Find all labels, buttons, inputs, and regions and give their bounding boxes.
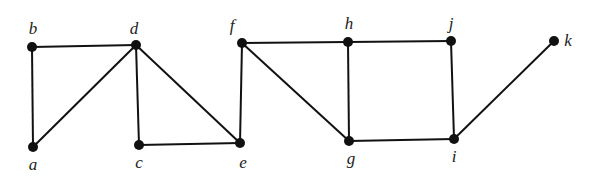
labels-group: abcdefghijk <box>29 14 572 174</box>
edge-h-j <box>348 41 451 42</box>
edge-f-g <box>242 43 349 141</box>
vertex-k <box>549 36 559 46</box>
edge-a-b <box>32 47 33 147</box>
vertex-label-h: h <box>345 14 354 33</box>
vertex-e <box>235 138 245 148</box>
vertex-b <box>27 42 37 52</box>
vertex-label-e: e <box>239 153 247 172</box>
vertex-h <box>343 37 353 47</box>
vertex-i <box>449 134 459 144</box>
vertex-label-f: f <box>230 16 237 35</box>
edge-a-d <box>33 45 136 147</box>
edge-g-i <box>349 139 454 141</box>
edge-c-e <box>139 143 240 145</box>
vertex-label-j: j <box>447 14 454 33</box>
vertex-g <box>344 136 354 146</box>
vertex-label-c: c <box>135 153 143 172</box>
edges-group <box>32 41 554 147</box>
vertex-label-b: b <box>29 19 38 38</box>
vertex-label-i: i <box>452 147 457 166</box>
vertex-label-a: a <box>29 155 38 174</box>
vertex-label-k: k <box>564 31 572 50</box>
vertex-c <box>134 140 144 150</box>
edge-g-h <box>348 42 349 141</box>
vertices-group <box>27 36 559 152</box>
vertex-label-d: d <box>130 19 139 38</box>
vertex-j <box>446 36 456 46</box>
graph-diagram: abcdefghijk <box>0 0 597 186</box>
edge-c-d <box>136 45 139 145</box>
edge-e-f <box>240 43 242 143</box>
vertex-f <box>237 38 247 48</box>
edge-d-e <box>136 45 240 143</box>
vertex-d <box>131 40 141 50</box>
edge-i-j <box>451 41 454 139</box>
edge-i-k <box>454 41 554 139</box>
edge-b-d <box>32 45 136 47</box>
vertex-a <box>28 142 38 152</box>
edge-f-h <box>242 42 348 43</box>
vertex-label-g: g <box>347 149 356 168</box>
